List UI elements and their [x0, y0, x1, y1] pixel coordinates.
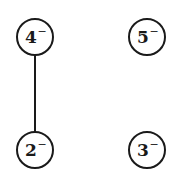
graph-diagram: 4−5−2−3−	[0, 0, 179, 180]
node-2: 2−	[17, 132, 53, 168]
node-5: 5−	[129, 19, 165, 55]
node-superscript: −	[149, 138, 158, 151]
node-4: 4−	[17, 19, 53, 55]
node-superscript: −	[37, 25, 46, 38]
node-label: 2	[25, 140, 37, 160]
node-label: 3	[137, 140, 149, 160]
node-3: 3−	[129, 132, 165, 168]
node-superscript: −	[37, 138, 46, 151]
node-label: 5	[137, 27, 149, 47]
node-superscript: −	[149, 25, 158, 38]
node-label: 4	[25, 27, 37, 47]
